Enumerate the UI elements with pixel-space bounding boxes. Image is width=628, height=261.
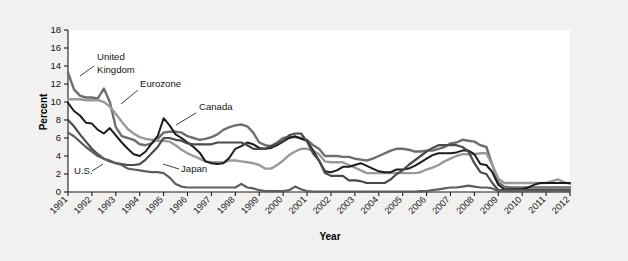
x-tick-label: 2003 bbox=[335, 194, 357, 216]
x-tick-label: 2006 bbox=[406, 194, 428, 216]
x-tick-label: 1991 bbox=[48, 194, 70, 216]
annotation-label-united-kingdom-line2: Kingdom bbox=[97, 64, 135, 75]
figure-container: 024681012141618 199119921993199419951996… bbox=[0, 0, 628, 261]
x-tick-label: 2000 bbox=[263, 194, 285, 216]
x-tick-label: 2010 bbox=[502, 194, 524, 216]
annotation-label-japan: Japan bbox=[181, 163, 207, 174]
y-tick-label: 6 bbox=[56, 132, 61, 143]
y-tick-label: 16 bbox=[50, 42, 61, 53]
x-tick-label: 2009 bbox=[478, 194, 500, 216]
x-axis-title: Year bbox=[319, 231, 340, 242]
x-tick-label: 2002 bbox=[311, 194, 333, 216]
x-tick-label: 2004 bbox=[359, 194, 381, 216]
y-tick-label: 12 bbox=[50, 78, 61, 89]
x-tick-label: 2007 bbox=[430, 194, 452, 216]
y-tick-label: 18 bbox=[50, 24, 61, 35]
line-chart: 024681012141618 199119921993199419951996… bbox=[0, 0, 628, 261]
y-tick-label: 10 bbox=[50, 96, 61, 107]
x-tick-label: 1994 bbox=[120, 194, 142, 216]
y-axis-title: Percent bbox=[38, 93, 49, 130]
x-tick-label: 2011 bbox=[526, 194, 547, 215]
annotation-label-canada: Canada bbox=[199, 101, 233, 112]
x-tick-label: 1996 bbox=[167, 194, 189, 216]
x-axis-ticks: 1991199219931994199519961997199819992000… bbox=[48, 192, 572, 216]
x-tick-label: 1992 bbox=[72, 194, 94, 216]
x-tick-label: 1999 bbox=[239, 194, 261, 216]
x-tick-label: 2001 bbox=[287, 194, 309, 216]
x-tick-label: 1995 bbox=[143, 194, 165, 216]
y-tick-label: 2 bbox=[56, 168, 61, 179]
x-tick-label: 2008 bbox=[454, 194, 476, 216]
annotation-label-united-kingdom: United bbox=[97, 51, 125, 62]
y-tick-label: 4 bbox=[56, 150, 61, 161]
annotation-label-us: U.S. bbox=[74, 165, 93, 176]
x-tick-label: 1998 bbox=[215, 194, 237, 216]
y-axis-ticks: 024681012141618 bbox=[50, 24, 68, 197]
x-tick-label: 2012 bbox=[550, 194, 572, 216]
y-tick-label: 14 bbox=[50, 60, 61, 71]
annotation-label-eurozone: Eurozone bbox=[140, 78, 181, 89]
x-tick-label: 1997 bbox=[191, 194, 213, 216]
x-tick-label: 1993 bbox=[96, 194, 118, 216]
x-tick-label: 2005 bbox=[383, 194, 405, 216]
y-tick-label: 8 bbox=[56, 114, 61, 125]
